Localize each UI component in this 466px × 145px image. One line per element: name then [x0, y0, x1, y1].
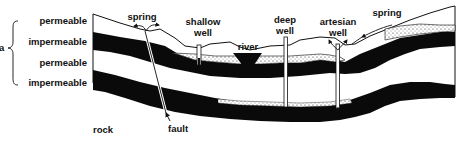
brace-prefix-label: a [0, 43, 4, 53]
deep-well [284, 37, 288, 107]
label-artesian-well-line1: artesian [310, 17, 366, 27]
label-deep-well-line2: well [265, 26, 305, 36]
lower-impermeable-layer [93, 70, 455, 122]
shallow-well [197, 45, 201, 65]
label-shallow-well-line2: well [178, 28, 228, 38]
label-spring-right: spring [364, 8, 410, 18]
layer-label-permeable-2: permeable [20, 58, 87, 68]
label-artesian-well-line2: well [310, 28, 366, 38]
label-deep-well-line1: deep [265, 15, 305, 25]
label-fault: fault [168, 124, 188, 134]
layer-brace [8, 21, 18, 85]
label-river: river [228, 42, 268, 52]
layer-label-impermeable-2: impermeable [20, 78, 87, 88]
label-rock: rock [93, 125, 113, 135]
layer-label-impermeable-1: impermeable [20, 37, 87, 47]
layer-label-permeable-1: permeable [20, 16, 87, 26]
label-spring-left: spring [122, 12, 162, 22]
label-shallow-well-line1: shallow [178, 17, 228, 27]
fault-arrow-icon [166, 113, 170, 121]
